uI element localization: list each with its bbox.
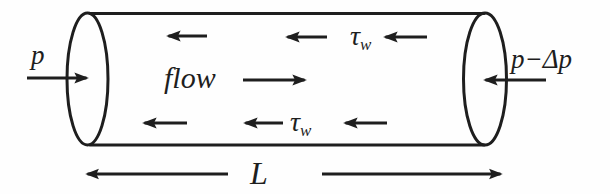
pressure-right-label: p−Δp bbox=[509, 44, 572, 74]
shear-stress-label-top: τw bbox=[350, 20, 372, 54]
tau-subscript: w bbox=[300, 121, 312, 140]
shear-stress-label-bottom: τw bbox=[290, 106, 312, 140]
length-label: L bbox=[249, 155, 268, 191]
flow-label: flow bbox=[164, 61, 216, 94]
pipe-flow-diagram-canvas: p p−Δp flow τw τw L bbox=[0, 0, 610, 194]
pressure-left-label: p bbox=[29, 40, 45, 70]
pipe-flow-control-volume-diagram: p p−Δp flow τw τw L bbox=[0, 0, 610, 194]
tau-subscript: w bbox=[360, 35, 372, 54]
